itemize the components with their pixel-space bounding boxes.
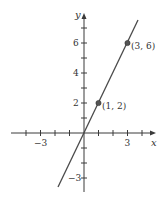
coordinate-plot: −3 3 x y 6 4 2 −3 (1, 2) (3, 6) [0, 0, 166, 203]
y-axis: y 6 4 2 −3 [68, 9, 87, 192]
y-tick-label-4: 4 [73, 68, 79, 78]
x-tick-label-neg3: −3 [34, 138, 48, 148]
y-tick-label-2: 2 [73, 98, 79, 108]
y-axis-arrow-icon [82, 13, 87, 19]
point-label-3-6: (3, 6) [131, 41, 155, 51]
y-axis-label: y [74, 9, 81, 20]
point-label-1-2: (1, 2) [102, 101, 126, 111]
x-axis-label: x [151, 137, 157, 148]
point-1-2-marker [96, 100, 101, 105]
point-3-6-marker [125, 40, 130, 45]
y-tick-label-6: 6 [73, 38, 79, 48]
y-tick-label-neg3: −3 [68, 173, 82, 183]
x-axis-arrow-icon [150, 131, 156, 136]
x-tick-label-3: 3 [125, 138, 131, 148]
